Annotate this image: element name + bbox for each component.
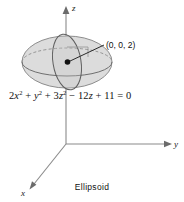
equation-rendered: 2x2 + y2 + 3z2 − 12z + 11 = 0 (9, 90, 131, 101)
ellipsoid-surface (22, 32, 112, 92)
ellipsoid-figure: z y x (0, 0, 2) 2x2 + y2 + 3z2 − 12z + 1… (0, 0, 184, 202)
y-axis-label: y (173, 139, 178, 149)
z-axis-label: z (71, 3, 76, 13)
y-axis-arrowhead (164, 141, 172, 147)
x-axis-line (34, 144, 66, 184)
center-point-dot (65, 59, 71, 65)
z-axis-arrowhead (63, 6, 70, 14)
surface-equation: 2x2 + y2 + 3z2 − 12z + 11 = 0 (9, 88, 179, 104)
figure-caption: Ellipsoid (0, 182, 184, 192)
annotated-point-label: (0, 0, 2) (106, 40, 135, 50)
